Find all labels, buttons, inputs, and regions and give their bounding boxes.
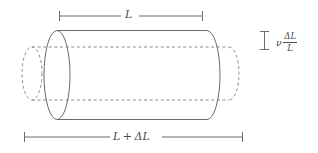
- bottom-dimension-label: L+ΔL: [113, 131, 150, 142]
- original-left-cap-ellipse: [22, 47, 42, 100]
- transverse-dimension-bar: [260, 31, 269, 50]
- original-right-cap-arc: [229, 47, 239, 100]
- deformed-cylinder-solid: [44, 31, 220, 120]
- cylinder-strain-figure: L L+ΔL ν ΔL L: [0, 0, 318, 153]
- strain-fraction: ΔL L: [283, 32, 297, 53]
- bottom-label-operator: +: [123, 130, 132, 143]
- deformed-front-cap-ellipse: [44, 31, 70, 120]
- figure-canvas: [0, 0, 318, 153]
- poisson-ratio-symbol: ν: [276, 38, 282, 48]
- original-cylinder-dashed: [22, 47, 239, 100]
- transverse-dimension-label: ν ΔL L: [276, 32, 297, 53]
- strain-fraction-denominator: L: [286, 43, 294, 53]
- deformed-back-cap-arc: [207, 31, 220, 120]
- bottom-label-first-term: L: [113, 130, 120, 143]
- top-dimension-label: L: [125, 9, 132, 20]
- bottom-label-second-term: ΔL: [135, 130, 150, 143]
- strain-fraction-numerator: ΔL: [283, 32, 297, 42]
